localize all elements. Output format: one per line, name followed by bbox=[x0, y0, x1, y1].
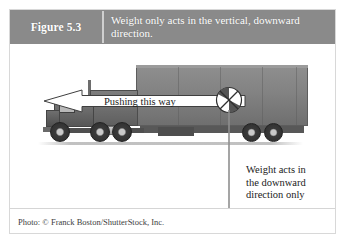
wheel-front bbox=[50, 122, 70, 142]
figure-caption-text: Weight only acts in the vertical, downwa… bbox=[111, 14, 333, 41]
weight-label-line-3: direction only bbox=[246, 189, 335, 202]
wheel-drive-2 bbox=[112, 122, 132, 142]
trailer-rib bbox=[296, 67, 297, 125]
truck-photo: Pushing this way Weight acts in the down… bbox=[28, 50, 318, 170]
figure-header-band: Figure 5.3 Weight only acts in the verti… bbox=[10, 10, 335, 44]
header-divider bbox=[102, 11, 104, 43]
figure-root: Figure 5.3 Weight only acts in the verti… bbox=[0, 0, 348, 247]
photo-credit-text: Photo: © Franck Boston/ShutterStock, Inc… bbox=[10, 217, 164, 227]
figure-image-panel: Pushing this way Weight acts in the down… bbox=[10, 44, 335, 208]
ground-shadow bbox=[38, 142, 303, 145]
pushing-this-way-label: Pushing this way bbox=[104, 93, 224, 109]
figure-number-label: Figure 5.3 bbox=[31, 21, 82, 33]
weight-label-line-1: Weight acts in bbox=[246, 164, 335, 177]
weight-direction-label: Weight acts in the downward direction on… bbox=[246, 164, 335, 202]
wheel-drive-1 bbox=[90, 122, 110, 142]
photo-credit-bar: Photo: © Franck Boston/ShutterStock, Inc… bbox=[10, 208, 335, 234]
figure-number-cell: Figure 5.3 bbox=[10, 10, 102, 44]
wheel-trailer-2 bbox=[264, 123, 283, 142]
weight-label-line-2: the downward bbox=[246, 177, 335, 190]
wheel-trailer-1 bbox=[242, 123, 261, 142]
weight-vector-arrow-icon bbox=[217, 110, 241, 208]
trailer-landing-gear bbox=[158, 127, 194, 136]
trailer-rib bbox=[262, 67, 263, 125]
trailer-top-rail bbox=[136, 65, 308, 68]
figure-caption-cell: Weight only acts in the vertical, downwa… bbox=[111, 10, 333, 44]
